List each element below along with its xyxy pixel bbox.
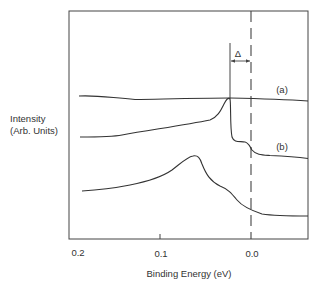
y-axis-title: Intensity (Arb. Units) xyxy=(10,113,58,137)
chart-canvas: Δ (a) (b) 0.2 0.1 0.0 Binding Energy (eV… xyxy=(0,0,318,287)
plot-frame xyxy=(69,11,308,239)
x-tick-label-0: 0.2 xyxy=(71,247,84,258)
y-axis-title-line2: (Arb. Units) xyxy=(10,125,58,137)
x-tick-label-2: 0.0 xyxy=(245,248,258,259)
delta-arrowhead-left xyxy=(231,59,235,62)
series-b-label: (b) xyxy=(276,141,288,152)
delta-label: Δ xyxy=(235,48,242,59)
curve-b xyxy=(80,98,308,158)
x-axis-title: Binding Energy (eV) xyxy=(146,268,231,279)
series-a-label: (a) xyxy=(276,84,288,95)
delta-arrowhead-right xyxy=(246,59,250,62)
y-axis-title-line1: Intensity xyxy=(10,113,58,125)
curve-c xyxy=(82,156,308,216)
x-tick-label-1: 0.1 xyxy=(154,248,167,259)
curve-a xyxy=(79,96,308,101)
